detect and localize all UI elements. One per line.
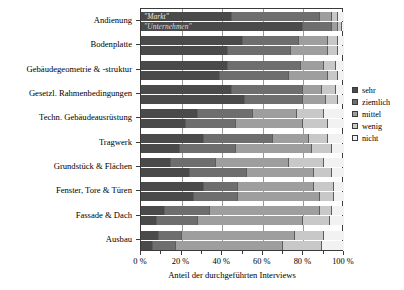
bar-segment-wenig — [297, 109, 323, 118]
x-axis-tick — [181, 251, 182, 255]
bar-group — [141, 106, 342, 130]
legend-swatch-ziemlich — [352, 99, 358, 105]
x-axis-tick-label: 20 % — [172, 257, 189, 266]
bar-segment-sehr — [141, 85, 232, 94]
bar-segment-wenig — [312, 144, 332, 153]
legend-label: nicht — [362, 134, 378, 143]
bar-segment-sehr — [141, 216, 157, 225]
x-axis-ticks — [140, 251, 343, 256]
bar-segment-mittel — [210, 206, 320, 215]
bar-unternehmen — [141, 46, 342, 55]
x-axis-minor-tick — [201, 251, 202, 254]
bar-segment-mittel — [236, 144, 311, 153]
bar-group: "Markt""Unternehmen" — [141, 9, 342, 33]
y-axis-label: Gebäudegeometrie & -struktur — [27, 64, 132, 74]
legend-swatch-wenig — [352, 123, 358, 129]
legend-item-wenig: wenig — [352, 120, 404, 132]
bar-segment-nicht — [322, 241, 344, 250]
bar-segment-nicht — [324, 231, 344, 240]
y-axis-label: Bodenplatte — [90, 39, 132, 49]
bar-unternehmen — [141, 216, 342, 225]
bar-group — [141, 155, 342, 179]
legend-swatch-sehr — [352, 87, 358, 93]
bar-group — [141, 33, 342, 57]
bar-segment-wenig — [289, 158, 324, 167]
x-axis-tick — [302, 251, 303, 255]
bar-segment-sehr — [141, 109, 198, 118]
y-axis-label: Techn. Gebäudeausrüstung — [39, 112, 132, 122]
bar-segment-sehr — [141, 241, 153, 250]
bar-segment-nicht — [338, 36, 344, 45]
bar-segment-mittel — [176, 241, 284, 250]
legend-item-ziemlich: ziemlich — [352, 96, 404, 108]
bar-segment-mittel — [301, 61, 323, 70]
bar-segment-nicht — [342, 22, 344, 31]
bar-segment-mittel — [291, 46, 328, 55]
bar-segment-mittel — [273, 134, 310, 143]
legend-swatch-mittel — [352, 111, 358, 117]
legend-label: mittel — [362, 110, 381, 119]
bar-group — [141, 203, 342, 227]
legend: sehrziemlichmittelwenignicht — [352, 84, 404, 144]
bar-segment-wenig — [303, 216, 329, 225]
x-axis-minor-tick — [242, 251, 243, 254]
bar-segment-wenig — [326, 95, 338, 104]
x-axis-minor-tick — [282, 251, 283, 254]
bar-markt — [141, 158, 342, 167]
bar-segment-sehr — [141, 192, 194, 201]
bar-segment-wenig — [320, 206, 332, 215]
bar-segment-ziemlich — [194, 192, 239, 201]
bar-segment-sehr — [141, 36, 243, 45]
x-axis-tick-label: 60 % — [253, 257, 270, 266]
bar-group — [141, 179, 342, 203]
bar-segment-ziemlich — [165, 206, 210, 215]
y-axis-label: Gesetzl. Rahmenbedingungen — [29, 88, 132, 98]
bar-segment-wenig — [283, 241, 322, 250]
y-axis-label: Fenster, Tore & Türen — [56, 185, 132, 195]
bar-markt — [141, 12, 342, 21]
bar-segment-mittel — [299, 36, 327, 45]
bar-group — [141, 228, 342, 252]
bar-segment-wenig — [328, 71, 338, 80]
annotation-markt: "Markt" — [144, 12, 169, 21]
bar-unternehmen — [141, 144, 342, 153]
y-axis-label: Ausbau — [106, 234, 132, 244]
bar-unternehmen — [141, 71, 342, 80]
bar-group — [141, 82, 342, 106]
x-axis-tick-label: 100 % — [332, 257, 354, 266]
legend-item-sehr: sehr — [352, 84, 404, 96]
bar-segment-nicht — [338, 12, 344, 21]
bar-unternehmen — [141, 168, 342, 177]
legend-label: wenig — [362, 122, 382, 131]
bar-segment-sehr — [141, 119, 186, 128]
bar-segment-wenig — [322, 85, 336, 94]
bar-segment-sehr — [141, 168, 190, 177]
bar-segment-sehr — [141, 144, 180, 153]
bar-segment-ziemlich — [303, 22, 331, 31]
bar-segment-mittel — [303, 85, 321, 94]
x-axis-tick-label: 80 % — [294, 257, 311, 266]
bar-segment-sehr — [141, 206, 165, 215]
bar-segment-nicht — [332, 144, 344, 153]
bar-segment-nicht — [338, 71, 344, 80]
bar-segment-mittel — [236, 119, 303, 128]
bar-segment-mittel — [320, 12, 332, 21]
bar-markt — [141, 36, 342, 45]
bar-segment-mittel — [238, 192, 319, 201]
bar-segment-mittel — [247, 168, 314, 177]
bar-segment-ziemlich — [204, 182, 239, 191]
bar-markt — [141, 85, 342, 94]
plot-area: "Markt""Unternehmen" — [140, 8, 343, 251]
bar-segment-ziemlich — [228, 46, 291, 55]
bar-segment-nicht — [332, 168, 344, 177]
bar-segment-sehr — [141, 231, 159, 240]
bar-segment-wenig — [295, 231, 323, 240]
bar-segment-nicht — [338, 46, 344, 55]
bar-segment-sehr — [141, 134, 204, 143]
bar-segment-ziemlich — [232, 85, 303, 94]
bar-segment-ziemlich — [190, 168, 247, 177]
bar-segment-mittel — [198, 216, 304, 225]
bar-segment-ziemlich — [204, 134, 273, 143]
bar-segment-mittel — [253, 109, 298, 118]
bar-segment-nicht — [334, 182, 344, 191]
